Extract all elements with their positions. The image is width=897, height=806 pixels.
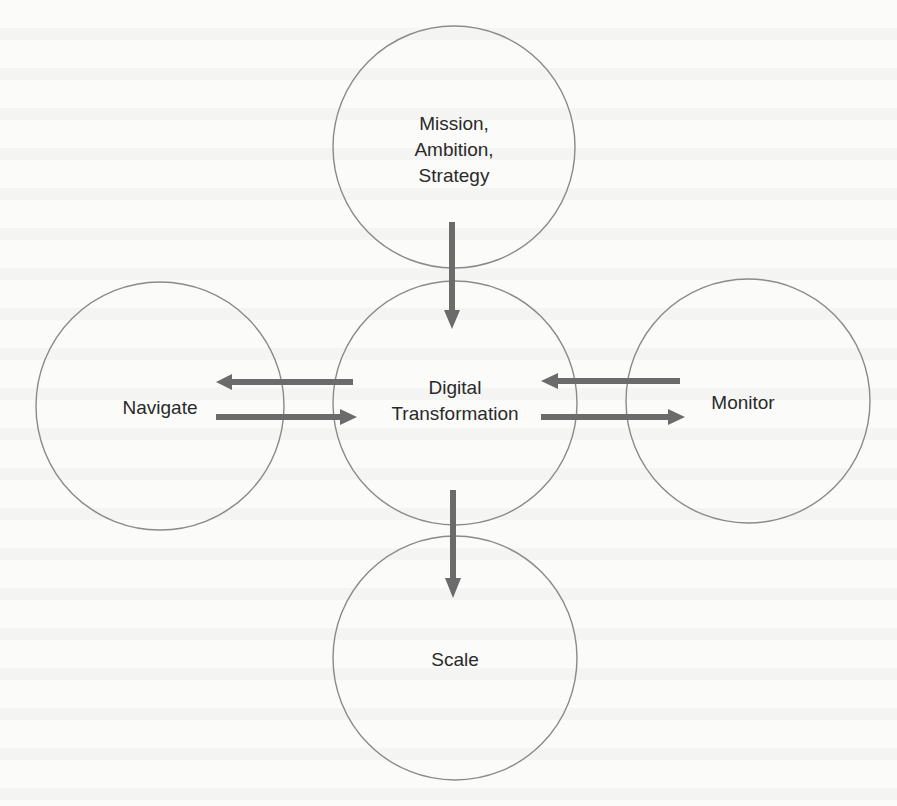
node-label-navigate: Navigate — [123, 395, 198, 421]
diagram-canvas: Mission, Ambition, Strategy Digital Tran… — [0, 0, 897, 806]
arrow-digital-to-navigate — [216, 374, 353, 390]
node-label-mission: Mission, Ambition, Strategy — [414, 111, 493, 189]
arrow-digital-to-monitor — [541, 409, 685, 425]
node-label-monitor: Monitor — [711, 390, 774, 416]
node-label-digital-transformation: Digital Transformation — [391, 375, 518, 427]
node-label-scale: Scale — [431, 647, 479, 673]
arrow-mission-to-digital — [444, 222, 460, 329]
arrow-monitor-to-digital — [541, 373, 680, 389]
arrow-navigate-to-digital — [216, 409, 357, 425]
arrow-digital-to-scale — [445, 490, 461, 598]
